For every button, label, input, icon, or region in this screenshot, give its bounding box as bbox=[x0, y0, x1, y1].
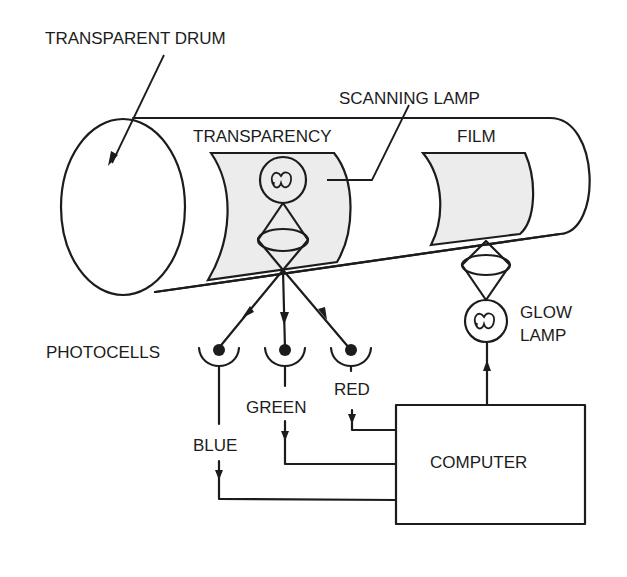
wire-red-arrowhead bbox=[348, 414, 356, 424]
light-rays bbox=[218, 270, 350, 349]
label-film: FILM bbox=[457, 127, 496, 146]
label-computer: COMPUTER bbox=[430, 453, 527, 472]
glow-lens-cone bbox=[462, 241, 510, 300]
photocell-dot bbox=[279, 344, 291, 356]
label-glow-lamp-line2: LAMP bbox=[520, 326, 566, 345]
photocell-red bbox=[331, 344, 371, 366]
wire-green-arrowhead bbox=[281, 431, 289, 441]
film-sheet bbox=[423, 153, 533, 245]
ray-green-arrowhead bbox=[280, 312, 289, 325]
drum-leader-line bbox=[112, 55, 164, 163]
ray-green bbox=[283, 270, 285, 349]
drum-end-ellipse bbox=[61, 119, 185, 295]
label-transparent-drum: TRANSPARENT DRUM bbox=[45, 29, 226, 48]
wire-blue-arrowhead bbox=[215, 470, 223, 480]
label-photocells: PHOTOCELLS bbox=[46, 343, 160, 362]
glow-lens-icon bbox=[462, 255, 510, 275]
photocell-dot bbox=[345, 344, 357, 356]
label-blue: BLUE bbox=[193, 436, 237, 455]
label-red: RED bbox=[334, 380, 370, 399]
label-green: GREEN bbox=[246, 398, 306, 417]
photocells bbox=[199, 344, 371, 366]
glow-lamp bbox=[462, 241, 510, 342]
label-scanning-lamp: SCANNING LAMP bbox=[339, 89, 480, 108]
photocell-green bbox=[265, 344, 305, 366]
glow-lamp-bulb bbox=[465, 300, 507, 342]
transparency-sheet bbox=[208, 153, 351, 280]
wire-blue-lower bbox=[219, 461, 396, 500]
ray-red bbox=[283, 270, 350, 349]
photocell-dot bbox=[213, 344, 225, 356]
filament-icon bbox=[475, 314, 494, 329]
label-glow-lamp-line1: GLOW bbox=[520, 303, 572, 322]
label-transparency: TRANSPARENCY bbox=[193, 127, 332, 146]
photocell-blue bbox=[199, 344, 239, 366]
wire-green-lower bbox=[285, 421, 396, 464]
wire-red-lower bbox=[352, 410, 396, 430]
wire-glow-arrowhead bbox=[483, 360, 491, 371]
drum-scanner-diagram: TRANSPARENT DRUM SCANNING LAMP TRANSPARE… bbox=[0, 0, 627, 577]
